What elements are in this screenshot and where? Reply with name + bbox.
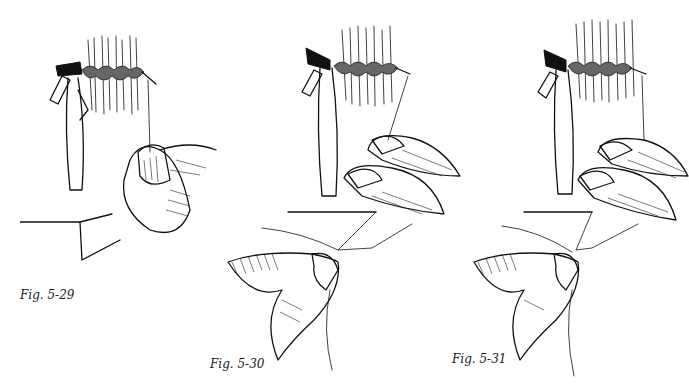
figure-caption: Fig. 5-29: [20, 288, 74, 302]
figure-5-29: Fig. 5-29: [20, 0, 230, 389]
fly-tying-illustration-thread-pull: [222, 0, 472, 389]
fly-tying-illustration-thumb-hold: [20, 0, 230, 280]
figure-caption: Fig. 5-31: [452, 352, 506, 366]
figure-5-31: Fig. 5-31: [468, 0, 689, 389]
figure-5-30: Fig. 5-30: [222, 0, 472, 389]
figure-caption: Fig. 5-30: [210, 357, 264, 371]
fly-tying-illustration-thread-wrap: [468, 0, 689, 389]
